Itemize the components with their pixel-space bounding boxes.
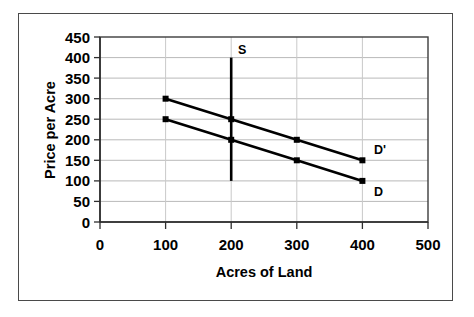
y-tick-label: 350 <box>65 70 90 87</box>
supply-demand-chart: 450 400 350 300 250 200 150 100 50 0 0 1… <box>0 0 474 317</box>
data-point-marker <box>228 116 234 122</box>
x-tick-label: 200 <box>219 236 244 253</box>
x-axis-title: Acres of Land <box>216 264 313 280</box>
chart-svg: 450 400 350 300 250 200 150 100 50 0 0 1… <box>0 0 474 317</box>
y-axis-ticks <box>94 37 100 222</box>
x-axis-ticks <box>100 222 428 229</box>
data-point-marker <box>294 137 300 143</box>
x-tick-label: 100 <box>153 236 178 253</box>
data-point-marker <box>294 157 300 163</box>
y-tick-label: 400 <box>65 49 90 66</box>
y-tick-label: 100 <box>65 172 90 189</box>
x-tick-label: 400 <box>350 236 375 253</box>
x-tick-labels: 0 100 200 300 400 500 <box>96 236 441 253</box>
y-tick-label: 50 <box>73 193 90 210</box>
data-point-marker <box>163 96 169 102</box>
data-point-marker <box>359 178 365 184</box>
data-point-marker <box>228 137 234 143</box>
demand-curve-label: D <box>374 185 383 199</box>
data-point-marker <box>359 157 365 163</box>
x-tick-label: 300 <box>284 236 309 253</box>
x-tick-label: 500 <box>415 236 440 253</box>
y-tick-label: 300 <box>65 90 90 107</box>
x-tick-label: 0 <box>96 236 104 253</box>
y-tick-label: 450 <box>65 29 90 46</box>
data-point-marker <box>163 116 169 122</box>
y-axis-title: Price per Acre <box>42 81 58 179</box>
y-tick-label: 250 <box>65 111 90 128</box>
y-tick-label: 150 <box>65 152 90 169</box>
y-tick-label: 0 <box>82 214 90 231</box>
y-tick-labels: 450 400 350 300 250 200 150 100 50 0 <box>65 29 90 231</box>
shifted-demand-curve-label: D' <box>374 143 386 157</box>
supply-curve-label: S <box>238 43 246 57</box>
y-tick-label: 200 <box>65 131 90 148</box>
